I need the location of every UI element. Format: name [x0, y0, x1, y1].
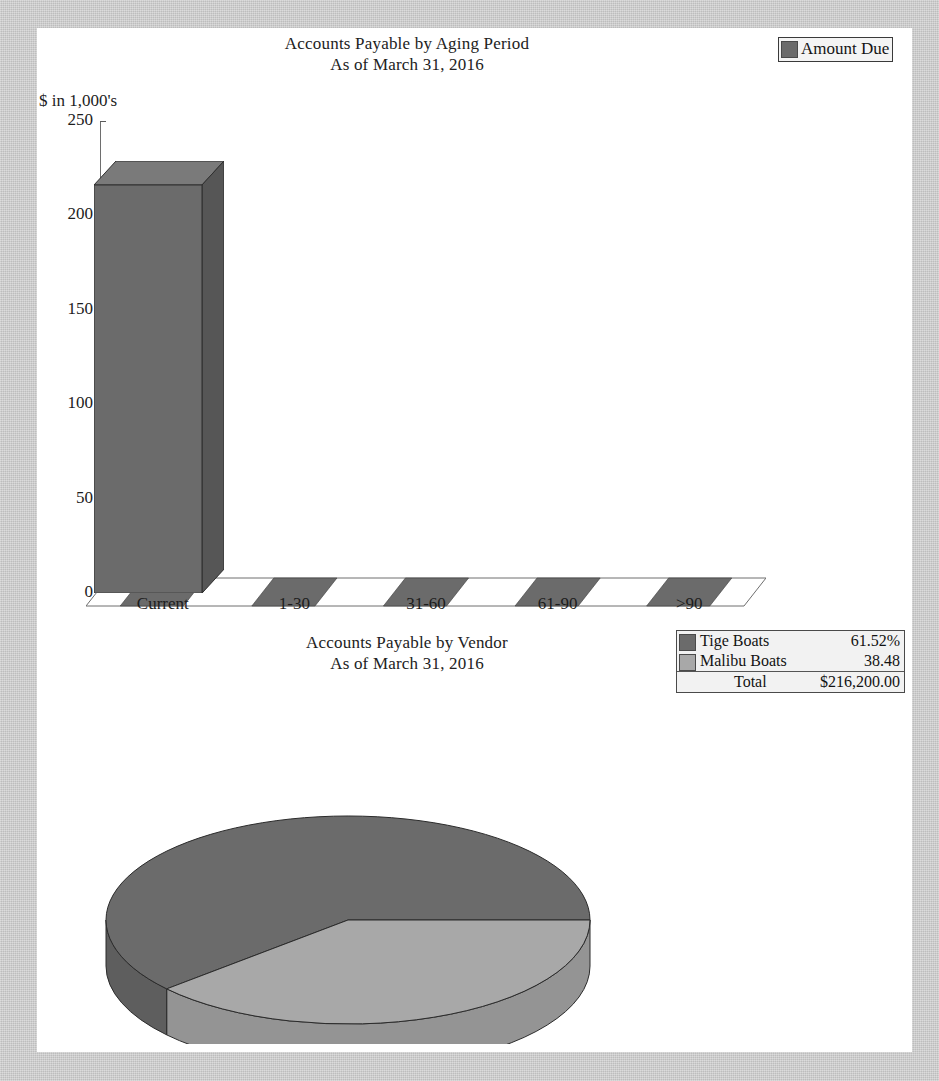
- legend-swatch-icon: [679, 654, 696, 671]
- pie-chart-title-line2: As of March 31, 2016: [177, 653, 637, 674]
- pie-legend-total-value: $216,200.00: [804, 672, 904, 693]
- x-tick-label-61-90: 61-90: [488, 594, 628, 614]
- report-paper: Accounts Payable by Aging Period As of M…: [37, 28, 912, 1052]
- pie-chart-title: Accounts Payable by Vendor As of March 3…: [177, 632, 637, 674]
- legend-swatch-icon: [781, 41, 798, 58]
- pie-legend-row[interactable]: Tige Boats61.52%: [677, 631, 904, 651]
- x-tick-label-31-60: 31-60: [356, 594, 496, 614]
- legend-swatch-icon: [679, 634, 696, 651]
- pie-graphic[interactable]: [72, 808, 632, 1044]
- pie-legend-row[interactable]: Malibu Boats38.48: [677, 651, 904, 672]
- pie-legend-value: 38.48: [804, 651, 904, 672]
- y-tick-label: 200: [47, 204, 93, 224]
- bar-chart-panel: Accounts Payable by Aging Period As of M…: [37, 28, 912, 620]
- pie-chart-legend[interactable]: Tige Boats61.52%Malibu Boats38.48Total$2…: [676, 630, 905, 693]
- bar-legend-label: Amount Due: [801, 39, 889, 59]
- pie-legend-total-spacer: [677, 672, 699, 693]
- x-tick-label->90: >90: [619, 594, 759, 614]
- y-tick-label: 100: [47, 393, 93, 413]
- pie-chart-panel: Accounts Payable by Vendor As of March 3…: [37, 620, 912, 1052]
- pie-legend-value: 61.52%: [804, 631, 904, 651]
- pie-legend-name: Malibu Boats: [699, 651, 804, 672]
- pie-chart-title-line1: Accounts Payable by Vendor: [177, 632, 637, 653]
- pie-legend-total-label: Total: [699, 672, 804, 693]
- y-tick-label: 250: [47, 110, 93, 130]
- y-tick-mark: [100, 121, 106, 122]
- bar-chart-title-line1: Accounts Payable by Aging Period: [177, 33, 637, 54]
- bar-chart-title: Accounts Payable by Aging Period As of M…: [177, 33, 637, 75]
- pie-legend-name: Tige Boats: [699, 631, 804, 651]
- pie-legend-swatch-cell: [677, 651, 699, 672]
- y-tick-label: 50: [47, 488, 93, 508]
- bar-chart-title-line2: As of March 31, 2016: [177, 54, 637, 75]
- bar-chart-legend[interactable]: Amount Due: [778, 37, 893, 62]
- y-tick-label: 150: [47, 299, 93, 319]
- bar-current[interactable]: [94, 161, 224, 593]
- pie-legend-swatch-cell: [677, 631, 699, 651]
- x-tick-label-1-30: 1-30: [224, 594, 364, 614]
- x-tick-label-Current: Current: [93, 594, 233, 614]
- y-axis-label: $ in 1,000's: [39, 91, 117, 111]
- pie-legend-total-row: Total$216,200.00: [677, 672, 904, 693]
